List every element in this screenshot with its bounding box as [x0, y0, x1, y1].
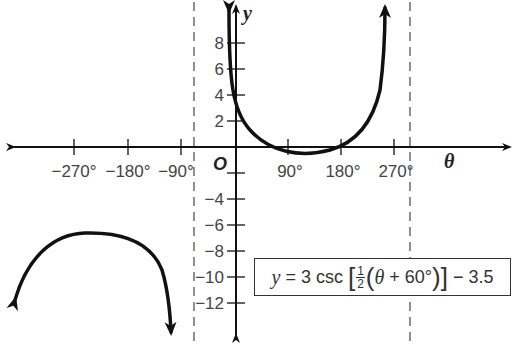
eq-frac-den: 2: [357, 278, 364, 290]
y-tick-label: −6: [205, 216, 224, 235]
eq-equals: = 3 csc: [280, 267, 348, 288]
eq-y: y: [271, 266, 280, 289]
eq-fraction: 1 2: [356, 265, 365, 290]
x-axis-label: θ: [444, 150, 455, 172]
eq-tail: − 3.5: [448, 267, 494, 288]
y-tick-label: 6: [215, 60, 224, 79]
y-axis-label: y: [241, 2, 252, 25]
eq-right-bracket: ]: [441, 267, 448, 287]
y-tick-label: −10: [195, 268, 224, 287]
x-tick-label: 90°: [277, 162, 303, 181]
y-tick-label: −8: [205, 242, 224, 261]
eq-left-bracket: [: [348, 267, 355, 287]
y-tick-label: 8: [215, 34, 224, 53]
x-tick-label: −180°: [105, 162, 150, 181]
equation-box: y = 3 csc [ 1 2 ( θ + 60° ) ] − 3.5: [254, 258, 511, 296]
y-tick-label: 4: [215, 86, 224, 105]
x-tick-label: 270°: [378, 162, 413, 181]
upper-branch-curve: [229, 8, 385, 153]
origin-label: O: [213, 154, 227, 174]
eq-plus: + 60°: [384, 267, 432, 288]
lower-branch-curve: [15, 233, 171, 332]
x-tick-label: −90°: [158, 162, 194, 181]
y-tick-label: −12: [195, 294, 224, 313]
eq-right-paren: ): [432, 267, 441, 287]
eq-left-paren: (: [366, 267, 375, 287]
y-tick-label: −4: [205, 190, 224, 209]
eq-frac-num: 1: [356, 265, 365, 278]
eq-theta: θ: [375, 266, 385, 289]
x-tick-label: −270°: [51, 162, 96, 181]
y-tick-label: 2: [215, 112, 224, 131]
x-tick-label: 180°: [325, 162, 360, 181]
